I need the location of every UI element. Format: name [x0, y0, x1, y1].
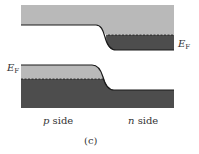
- fermi-label-sub: F: [185, 43, 190, 51]
- bottom-band-light: [21, 65, 104, 79]
- fermi-label-sub: F: [14, 67, 19, 75]
- band-diagram: [0, 0, 199, 154]
- top-band-light: [21, 5, 174, 35]
- n-side-label: n side: [128, 115, 158, 126]
- p-word: side: [49, 115, 73, 126]
- n-word: side: [134, 115, 158, 126]
- bottom-fermi-label: EF: [7, 62, 19, 75]
- bottom-band-dark: [21, 79, 174, 108]
- p-side-label: p side: [43, 115, 73, 126]
- figure-caption: (c): [84, 135, 97, 146]
- top-fermi-label: EF: [178, 38, 190, 51]
- top-band-dark: [106, 35, 174, 50]
